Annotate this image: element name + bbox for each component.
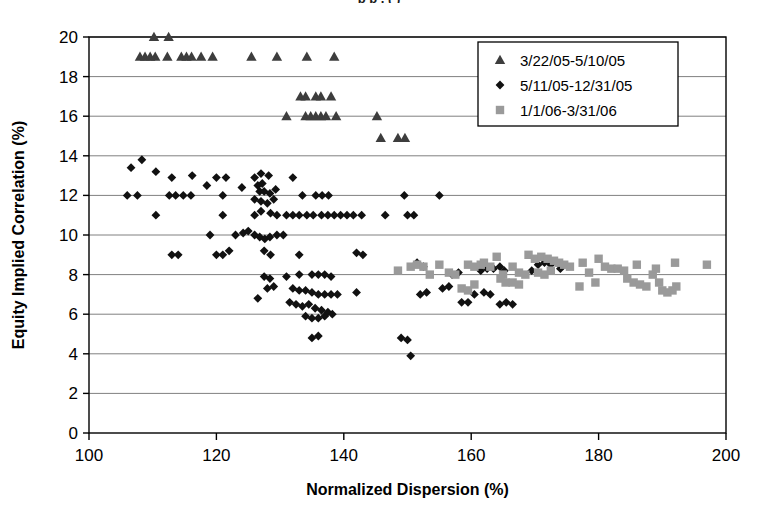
y-tick-label-6: 6 xyxy=(69,305,78,324)
data-point xyxy=(167,173,176,182)
data-point xyxy=(272,52,282,61)
data-point xyxy=(218,211,227,220)
data-point xyxy=(620,266,628,274)
data-point xyxy=(376,133,386,142)
data-point xyxy=(162,52,172,61)
data-point xyxy=(324,191,333,200)
x-tick-label-200: 200 xyxy=(712,446,740,465)
data-point xyxy=(331,111,341,120)
y-tick-label-10: 10 xyxy=(59,226,78,245)
y-tick-label-14: 14 xyxy=(59,147,78,166)
data-point xyxy=(302,52,312,61)
data-point xyxy=(295,270,304,279)
x-axis-title: Normalized Dispersion (%) xyxy=(306,481,509,498)
data-point xyxy=(309,211,318,220)
data-point xyxy=(281,111,291,120)
data-point xyxy=(486,262,494,270)
data-point xyxy=(179,191,188,200)
x-axis: 100120140160180200 xyxy=(75,433,740,465)
y-axis-title: Equity Implied Correlation (%) xyxy=(10,121,27,349)
data-point xyxy=(406,262,414,270)
data-point xyxy=(207,52,217,61)
data-point xyxy=(151,211,160,220)
data-point xyxy=(253,294,262,303)
y-tick-label-20: 20 xyxy=(59,28,78,47)
data-point xyxy=(585,268,593,276)
data-point xyxy=(326,91,336,100)
data-point xyxy=(171,191,180,200)
scatter-chart-figure: p p , ( ) 024681012141618201001201401601… xyxy=(0,0,758,519)
data-point xyxy=(591,278,599,286)
legend-marker-square-icon xyxy=(496,106,504,114)
data-point xyxy=(703,261,711,269)
y-tick-label-12: 12 xyxy=(59,186,78,205)
data-point xyxy=(206,231,215,240)
data-point xyxy=(435,191,444,200)
data-point xyxy=(174,250,183,259)
data-point xyxy=(151,167,160,176)
y-tick-label-0: 0 xyxy=(69,424,78,443)
data-point xyxy=(264,171,273,180)
data-point xyxy=(137,155,146,164)
x-tick-label-180: 180 xyxy=(584,446,612,465)
data-point xyxy=(419,262,427,270)
data-point xyxy=(547,266,555,274)
data-point xyxy=(237,183,246,192)
data-point xyxy=(329,52,339,61)
legend-label-3: 1/1/06-3/31/06 xyxy=(520,102,617,119)
data-point xyxy=(333,290,342,299)
data-point xyxy=(196,52,206,61)
data-point xyxy=(349,211,358,220)
data-point xyxy=(246,52,256,61)
data-point xyxy=(594,255,602,263)
data-point xyxy=(633,261,641,269)
data-point xyxy=(231,231,240,240)
data-point xyxy=(372,111,382,120)
data-point xyxy=(127,163,136,172)
data-point xyxy=(282,272,291,281)
data-point xyxy=(295,250,304,259)
data-point xyxy=(298,191,307,200)
data-point xyxy=(222,173,231,182)
y-tick-label-2: 2 xyxy=(69,384,78,403)
y-tick-label-4: 4 xyxy=(69,345,78,364)
data-point xyxy=(288,173,297,182)
y-tick-label-16: 16 xyxy=(59,107,78,126)
y-tick-label-8: 8 xyxy=(69,266,78,285)
data-point xyxy=(464,298,473,307)
data-point xyxy=(521,270,529,278)
data-point xyxy=(470,280,478,288)
x-tick-label-160: 160 xyxy=(457,446,485,465)
clipped-figure-caption: p p , ( ) xyxy=(0,0,758,3)
data-point xyxy=(295,211,304,220)
data-point xyxy=(218,191,227,200)
legend-label-1: 3/22/05-5/10/05 xyxy=(520,52,625,69)
x-tick-label-100: 100 xyxy=(75,446,103,465)
data-point xyxy=(672,282,680,290)
data-point xyxy=(492,253,500,261)
data-point xyxy=(652,264,660,272)
data-point xyxy=(578,259,586,267)
data-point xyxy=(515,280,523,288)
legend-label-2: 5/11/05-12/31/05 xyxy=(520,77,632,94)
data-point xyxy=(400,191,409,200)
data-point xyxy=(212,173,221,182)
data-point xyxy=(352,288,361,297)
data-point xyxy=(133,191,142,200)
data-point xyxy=(202,181,211,190)
data-point xyxy=(188,171,197,180)
data-point xyxy=(394,266,402,274)
data-point xyxy=(400,133,410,142)
data-point xyxy=(451,270,459,278)
y-tick-label-18: 18 xyxy=(59,68,78,87)
data-point xyxy=(642,282,650,290)
data-point xyxy=(406,351,415,360)
data-point xyxy=(566,262,574,270)
y-axis: 02468101214161820 xyxy=(59,28,89,443)
x-tick-label-140: 140 xyxy=(330,446,358,465)
data-point xyxy=(187,191,196,200)
data-point xyxy=(426,270,434,278)
x-tick-label-120: 120 xyxy=(202,446,230,465)
data-point xyxy=(409,211,418,220)
data-point xyxy=(655,278,663,286)
